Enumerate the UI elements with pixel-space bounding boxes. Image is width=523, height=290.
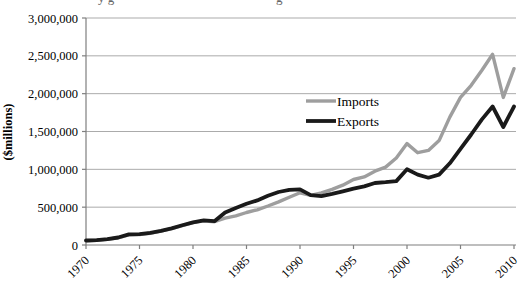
x-tick-label: 2005: [439, 253, 467, 281]
exports-legend-label: Exports: [337, 114, 379, 129]
x-tick-label: 1970: [65, 253, 93, 281]
exports-line: [86, 107, 514, 241]
y-tick-label: 3,000,000: [28, 12, 78, 26]
x-tick-label: 1990: [279, 253, 307, 281]
x-axis-labels: 197019751980198519901995200020052010: [65, 253, 521, 281]
imports-exports-line-chart: 0500,0001,000,0001,500,0002,000,0002,500…: [0, 0, 523, 290]
data-series: [86, 54, 514, 241]
x-tick-label: 1995: [332, 253, 360, 281]
x-tick-label: 2000: [386, 253, 414, 281]
y-tick-label: 500,000: [37, 201, 78, 215]
y-tick-label: 1,000,000: [28, 163, 78, 177]
chart-canvas: y g g 0500,0001,000,0001,500,0002,000,00…: [0, 0, 523, 290]
chart-legend: ImportsExports: [306, 94, 379, 129]
axes: [82, 18, 516, 249]
y-tick-label: 2,000,000: [28, 87, 78, 101]
x-tick-label: 1975: [118, 253, 146, 281]
x-tick-label: 1980: [172, 253, 200, 281]
trade-chart: 0500,0001,000,0001,500,0002,000,0002,500…: [0, 0, 523, 290]
y-axis-title: ($millions): [1, 104, 15, 161]
y-tick-label: 2,500,000: [28, 49, 78, 63]
y-tick-label: 0: [72, 239, 78, 253]
y-axis-labels: 0500,0001,000,0001,500,0002,000,0002,500…: [28, 12, 78, 253]
x-tick-label: 1985: [225, 253, 253, 281]
imports-line: [86, 54, 514, 241]
imports-legend-label: Imports: [337, 94, 379, 109]
x-tick-label: 2010: [493, 253, 521, 281]
y-tick-label: 1,500,000: [28, 125, 78, 139]
